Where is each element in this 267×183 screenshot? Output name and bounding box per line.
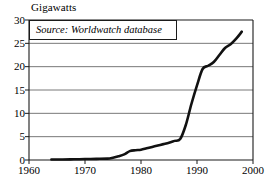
y-tick-label: 10 [3,108,25,119]
x-tick-label: 1960 [18,165,40,176]
x-tick-label: 2000 [242,165,264,176]
y-tick-label: 5 [3,131,25,142]
y-tick-label: 20 [3,61,25,72]
y-axis-tick-labels: 051015202530 [0,0,25,183]
x-tick-label: 1990 [186,165,208,176]
data-series-line [51,32,241,160]
y-tick-label: 25 [3,38,25,49]
x-tick-label: 1980 [130,165,152,176]
x-tick-label: 1970 [74,165,96,176]
y-tick-label: 15 [3,85,25,96]
source-annotation-text: Source: Worldwatch database [36,24,162,36]
wind-capacity-chart: Gigawatts Source: Worldwatch database 05… [0,0,267,183]
y-tick-label: 30 [3,15,25,26]
gridlines [29,20,253,160]
axis-ticks [25,20,253,164]
